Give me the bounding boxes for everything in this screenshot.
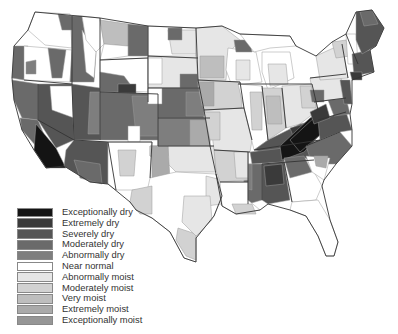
region-indiana-center: [266, 96, 282, 124]
legend-swatch: [17, 283, 53, 293]
legend-item-exceptionally-moist: Exceptionally moist: [17, 315, 142, 326]
region-california-north: [12, 80, 38, 120]
region-colorado-se: [128, 126, 140, 142]
region-michigan-center: [268, 64, 288, 86]
legend-swatch: [17, 272, 53, 282]
legend-swatch: [17, 208, 53, 218]
region-montana-south: [100, 44, 128, 60]
region-new-mexico-center: [118, 150, 136, 176]
legend-swatch: [17, 294, 53, 304]
legend-swatch: [17, 251, 53, 261]
region-utah-east: [88, 92, 100, 134]
legend-swatch: [17, 262, 53, 272]
legend-label: Exceptionally moist: [62, 315, 142, 326]
legend-swatch: [17, 229, 53, 239]
region-nebraska-west: [148, 88, 162, 104]
region-florida: [290, 200, 338, 256]
legend-item-abnormally-moist: Abnormally moist: [17, 272, 142, 283]
region-minnesota-center: [200, 56, 224, 78]
region-illinois-center: [250, 92, 262, 130]
legend-swatch: [17, 240, 53, 250]
legend: Exceptionally dry Extremely dry Severely…: [17, 207, 142, 326]
legend-swatch: [17, 218, 53, 228]
legend-swatch: [17, 316, 53, 326]
region-montana-center: [100, 20, 128, 46]
legend-swatch: [17, 305, 53, 315]
region-sc-inner: [314, 156, 328, 168]
region-montana-east: [128, 24, 148, 56]
region-south-dakota-east: [180, 74, 198, 88]
region-oregon-center: [26, 60, 36, 74]
region-wisconsin-center: [236, 60, 250, 80]
legend-label: Extremely dry: [62, 218, 119, 229]
region-pennsylvania-west: [310, 90, 324, 102]
region-north-dakota-ne: [168, 28, 182, 40]
legend-item-extremely-dry: Extremely dry: [17, 218, 142, 229]
region-arkansas-east: [234, 152, 248, 178]
legend-label: Abnormally moist: [62, 272, 134, 283]
region-south-dakota-west: [148, 58, 162, 84]
region-alabama-north: [264, 164, 284, 186]
